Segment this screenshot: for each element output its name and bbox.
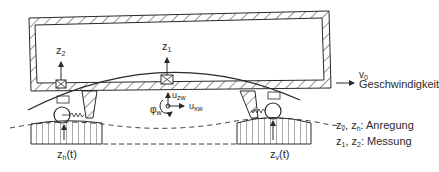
front-bogie: [240, 91, 281, 119]
label-z2: z2: [56, 45, 65, 57]
car-body: [29, 11, 331, 91]
label-uzw: uzw: [172, 91, 186, 101]
rear-excitation: [31, 121, 102, 144]
legend-row-excitation: zv, zh: Anregung: [336, 120, 414, 132]
label-uxw: uxw: [189, 102, 203, 112]
label-phiw: φw: [150, 105, 162, 116]
label-velocity: Geschwindigkeit: [359, 79, 439, 90]
front-excitation: [237, 118, 311, 145]
label-z1: z1: [162, 41, 171, 53]
label-zh: zh(t): [57, 149, 77, 161]
rear-bogie: [54, 91, 97, 123]
legend-row-measurement: z1, z2: Messung: [336, 136, 412, 148]
label-zv: zv(t): [270, 149, 289, 161]
